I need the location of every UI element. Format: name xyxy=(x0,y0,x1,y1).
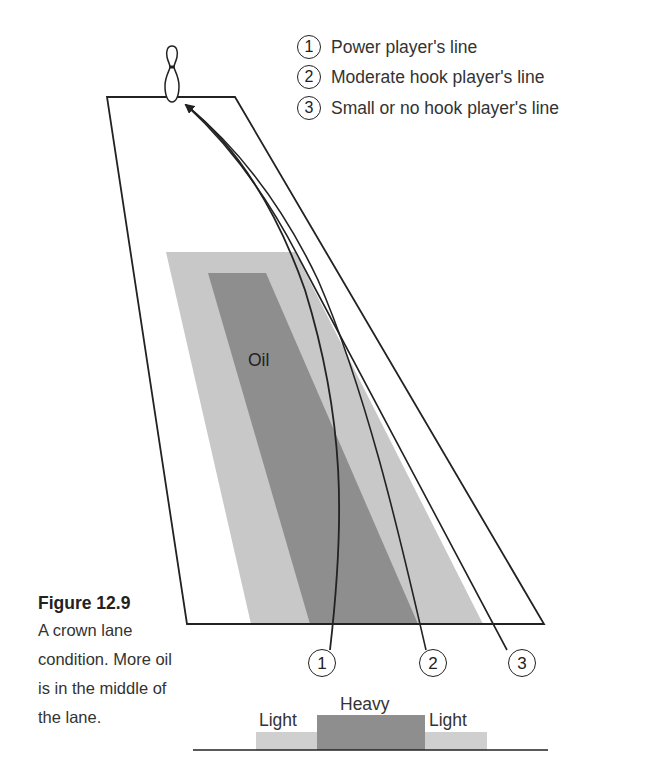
caption-title: Figure 12.9 xyxy=(38,590,173,616)
crown-lane-diagram: 1 Power player's line 2 Moderate hook pl… xyxy=(0,0,651,780)
line-marker-1: 1 xyxy=(308,649,336,677)
line-marker-3: 3 xyxy=(508,649,536,677)
legend-label: Moderate hook player's line xyxy=(331,67,544,88)
oil-label: Oil xyxy=(248,350,269,371)
figure-caption: Figure 12.9 A crown lane condition. More… xyxy=(38,590,173,732)
legend-item-1: 1 Power player's line xyxy=(297,34,477,60)
profile-label-light-right: Light xyxy=(429,710,467,731)
number-circle-icon: 1 xyxy=(297,35,321,59)
profile-label-heavy: Heavy xyxy=(340,694,390,715)
number-circle-icon: 1 xyxy=(308,649,336,677)
number-circle-icon: 3 xyxy=(508,649,536,677)
legend-label: Small or no hook player's line xyxy=(331,98,559,119)
legend-label: Power player's line xyxy=(331,37,477,58)
caption-text: A crown lane condition. More oil is in t… xyxy=(38,616,173,732)
number-circle-icon: 2 xyxy=(419,649,447,677)
line-marker-2: 2 xyxy=(419,649,447,677)
legend-item-2: 2 Moderate hook player's line xyxy=(297,64,544,90)
number-circle-icon: 3 xyxy=(297,96,321,120)
bowling-pin-icon xyxy=(165,46,179,102)
profile-light-left xyxy=(256,732,317,750)
legend-item-3: 3 Small or no hook player's line xyxy=(297,95,559,121)
number-circle-icon: 2 xyxy=(297,65,321,89)
profile-heavy-center xyxy=(317,715,425,750)
profile-label-light-left: Light xyxy=(259,710,297,731)
profile-light-right xyxy=(425,732,487,750)
